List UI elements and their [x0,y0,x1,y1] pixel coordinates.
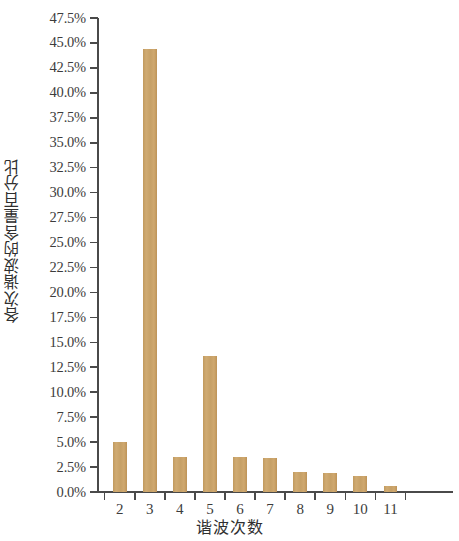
y-axis-tick-labels: 0.0%2.5%5.0%7.5%10.0%12.5%15.0%17.5%20.0… [20,0,86,541]
y-axis-tick-label: 45.0% [24,35,86,50]
bar-chart: 各次谐波的含量百分比 0.0%2.5%5.0%7.5%10.0%12.5%15.… [0,0,459,541]
y-axis-tick [90,366,98,368]
x-axis-tick [375,492,377,500]
y-axis-tick-label: 7.5% [24,410,86,425]
y-axis-tick [90,391,98,393]
y-axis-tick-label: 12.5% [24,360,86,375]
x-axis-tick [254,492,256,500]
y-axis-tick [90,491,98,493]
bar [173,457,187,492]
x-axis-tick [104,492,106,500]
y-axis-tick-label: 42.5% [24,60,86,75]
x-axis-tick [405,492,407,500]
y-axis-tick [90,167,98,169]
y-axis-tick-label: 25.0% [24,235,86,250]
x-axis-tick [164,492,166,500]
y-axis-tick-label: 20.0% [24,285,86,300]
y-axis-tick-label: 15.0% [24,335,86,350]
y-axis-tick-label: 5.0% [24,435,86,450]
y-axis-tick-label: 37.5% [24,110,86,125]
x-axis-tick [134,492,136,500]
y-axis-tick [90,92,98,94]
y-axis-tick [90,217,98,219]
y-axis-tick [90,292,98,294]
y-axis-tick [90,117,98,119]
x-axis-tick [345,492,347,500]
y-axis-tick [90,441,98,443]
y-axis-tick [90,192,98,194]
y-axis-tick-label: 47.5% [24,11,86,26]
plot-area [98,18,438,492]
y-axis-tick-label: 32.5% [24,160,86,175]
bar [233,457,247,492]
x-axis-tick [284,492,286,500]
bar [113,442,127,492]
y-axis-tick-label: 0.0% [24,485,86,500]
x-axis-tick [194,492,196,500]
x-axis-title: 谐波次数 [0,514,459,538]
y-axis-tick [90,267,98,269]
y-axis-tick-label: 30.0% [24,185,86,200]
bar [293,472,307,492]
y-axis-tick-label: 2.5% [24,460,86,475]
y-axis-tick [90,67,98,69]
y-axis-tick-label: 35.0% [24,135,86,150]
y-axis-tick [90,242,98,244]
y-axis-tick [90,416,98,418]
x-axis-tick [314,492,316,500]
y-axis-tick [90,142,98,144]
y-axis-tick [90,342,98,344]
y-axis-tick [90,466,98,468]
y-axis-tick [90,17,98,19]
y-axis-tick [90,42,98,44]
y-axis-tick-label: 27.5% [24,210,86,225]
y-axis-tick-label: 17.5% [24,310,86,325]
y-axis-tick [90,317,98,319]
bar [263,458,277,492]
bar [323,473,337,492]
y-axis-tick-label: 40.0% [24,85,86,100]
y-axis-tick-label: 10.0% [24,385,86,400]
bar [353,476,367,492]
bar [203,356,217,492]
bar [384,486,398,492]
x-axis-tick [224,492,226,500]
bar [143,49,157,492]
y-axis-tick-label: 22.5% [24,260,86,275]
